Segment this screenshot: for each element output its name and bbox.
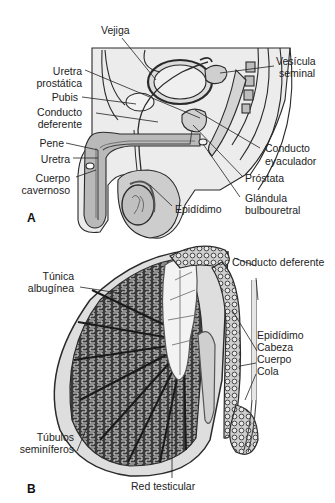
- label-tubulos-seminiferos-line2: seminíferos: [14, 443, 74, 455]
- label-tunica-albuginea-line1: Túnica: [30, 270, 74, 282]
- label-epididimo-b: Epidídimo: [257, 329, 304, 341]
- label-cabeza: Cabeza: [257, 341, 293, 353]
- panel-b-illustration: [0, 0, 335, 503]
- anatomy-figure: Vejiga Uretra prostática Pubis Conducto …: [0, 0, 335, 503]
- label-tunica-albuginea-line2: albugínea: [20, 282, 74, 294]
- label-tubulos-seminiferos-line1: Túbulos: [24, 431, 74, 443]
- label-conducto-deferente-b: Conducto deferente: [232, 256, 324, 268]
- label-cola: Cola: [257, 365, 279, 377]
- label-red-testicular: Red testicular: [131, 480, 195, 492]
- label-cuerpo: Cuerpo: [257, 353, 291, 365]
- panel-b-letter: B: [27, 482, 36, 496]
